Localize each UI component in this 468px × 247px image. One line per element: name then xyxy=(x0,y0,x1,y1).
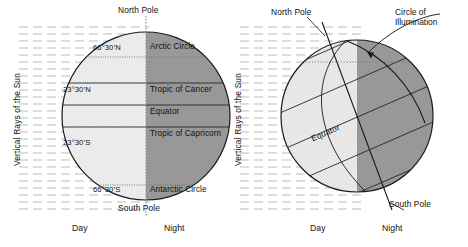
day-caption-right: Day xyxy=(310,224,326,233)
vertical-rays-label-right: Vertical Rays of the Sun xyxy=(233,73,243,166)
vertical-rays-label-left: Vertical Rays of the Sun xyxy=(12,73,22,166)
circle-of-illumination-line2: Illumination xyxy=(395,17,437,27)
right-figure-svg xyxy=(234,0,468,247)
north-pole-label-left: North Pole xyxy=(118,6,159,15)
left-figure-svg xyxy=(0,0,234,247)
diagram-canvas: Vertical Rays of the Sun North Pole Sout… xyxy=(0,0,468,247)
night-caption-right: Night xyxy=(382,224,403,233)
right-diagram-panel: Vertical Rays of the Sun North Pole Sout… xyxy=(234,0,468,247)
latitude-name-arctic-circle: Arctic Circle xyxy=(150,43,195,52)
circle-of-illumination-line1: Circle of xyxy=(395,7,437,17)
latitude-label-23s: 23°30’S xyxy=(63,139,90,147)
latitude-label-66s: 66°30’S xyxy=(93,186,120,194)
night-caption-left: Night xyxy=(164,224,185,233)
day-caption-left: Day xyxy=(72,224,88,233)
day-hemisphere-right xyxy=(281,40,357,192)
latitude-name-tropic-of-cancer: Tropic of Cancer xyxy=(150,86,212,95)
day-hemisphere-left xyxy=(62,32,146,200)
north-pole-leader-right xyxy=(307,17,325,36)
latitude-label-66n: 66°30’N xyxy=(93,44,121,52)
south-pole-label-right: South Pole xyxy=(389,200,431,209)
north-pole-label-right: North Pole xyxy=(271,8,312,17)
circle-of-illumination-label: Circle of Illumination xyxy=(395,7,437,28)
latitude-label-23n: 23°30’N xyxy=(63,86,91,94)
latitude-name-tropic-of-capricorn: Tropic of Capricorn xyxy=(150,130,221,139)
latitude-name-equator: Equator xyxy=(150,108,179,117)
left-diagram-panel: Vertical Rays of the Sun North Pole Sout… xyxy=(0,0,234,247)
latitude-name-antarctic-circle: Antarctic Circle xyxy=(150,186,207,195)
south-pole-label-left: South Pole xyxy=(118,204,160,213)
